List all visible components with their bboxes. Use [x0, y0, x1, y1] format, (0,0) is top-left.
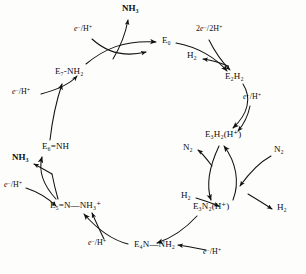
- branch-n2-out: [198, 150, 212, 166]
- reactant-n2-in: N₂: [274, 145, 284, 154]
- reagent-e-h-bottom-right: e−/H+: [203, 248, 221, 256]
- product-h2-out-bottom: H₂: [277, 203, 287, 212]
- node-e3n2-hplus: E₃N₂(H⁺): [193, 202, 229, 211]
- arc-e5-to-e6: [41, 157, 56, 199]
- node-e0: E₀: [162, 36, 171, 45]
- arc-e7-to-e0: [86, 42, 156, 64]
- branch-e-h-top-left: [92, 39, 146, 54]
- node-e4n-nh2: E₄N—NH₂: [134, 240, 175, 249]
- product-n2-out: N₂: [183, 143, 193, 152]
- node-e3h2-hplus: E₃H₂(H⁺): [205, 130, 241, 139]
- node-e6-nh: E₆=NH: [42, 142, 69, 151]
- branch-n2-in: [240, 156, 271, 186]
- reagent-e-h-bottom-left: e−/H+: [88, 239, 106, 247]
- reagent-two-e-two-h: 2e−/2H+: [196, 25, 222, 33]
- reagent-e-h-mid-left: e−/H+: [12, 88, 30, 96]
- node-e5n-nh3: E₅=N—NH₃⁺: [50, 201, 101, 210]
- arc-e3h2-to-e3n2-left: [209, 146, 219, 200]
- reagent-e-h-right: e−/H+: [243, 93, 261, 101]
- cycle-arrow-canvas: [0, 0, 306, 274]
- product-nh3-left: NH₃: [12, 153, 29, 162]
- product-nh3-top: NH₃: [122, 4, 139, 13]
- arc-e3n2-to-e3h2-right: [224, 146, 236, 200]
- product-h2-out-top: H₂: [187, 51, 197, 60]
- branch-e-h-bottom-right: [178, 245, 206, 250]
- node-e7-nh2: E₇-NH₂: [55, 67, 83, 76]
- node-e2h2: E₂H₂: [225, 72, 244, 81]
- branch-e-h-right: [238, 106, 250, 131]
- reactant-h2-in: H₂: [181, 191, 191, 200]
- branch-nh3-left: [34, 164, 52, 174]
- branch-e-h-mid-left: [41, 76, 77, 94]
- reagent-e-h-lower-left: e−/H+: [4, 181, 22, 189]
- nitrogenase-cycle-diagram: E₀ E₂H₂ E₃H₂(H⁺) E₃N₂(H⁺) E₄N—NH₂ E₅=N—N…: [0, 0, 306, 274]
- arc-e6-to-e7: [50, 84, 62, 140]
- arc-e2h2-to-e3h2: [233, 84, 248, 128]
- reagent-e-h-top-left: e−/H+: [74, 25, 92, 33]
- branch-e-h-bottom-left: [92, 213, 104, 239]
- branch-h2-out-bottom: [248, 194, 272, 209]
